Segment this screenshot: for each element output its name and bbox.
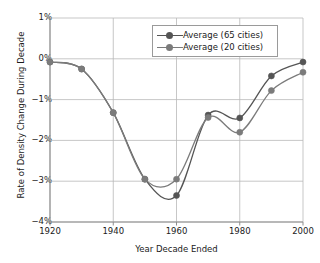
data-point — [268, 88, 274, 94]
legend: Average (65 cities) Average (20 cities) — [152, 25, 278, 57]
data-point — [205, 115, 211, 121]
legend-label: Average (20 cities) — [183, 41, 263, 53]
data-point — [47, 59, 53, 65]
data-point — [300, 69, 306, 75]
data-point — [174, 176, 180, 182]
data-point — [300, 59, 306, 65]
data-point — [174, 192, 180, 198]
legend-marker-icon — [157, 30, 183, 40]
legend-item-series-20: Average (20 cities) — [157, 41, 273, 53]
data-point — [142, 176, 148, 182]
legend-marker-icon — [157, 42, 183, 52]
chart-container: Rate of Density Change During Decade Yea… — [0, 0, 320, 263]
data-point — [268, 73, 274, 79]
legend-label: Average (65 cities) — [183, 29, 263, 41]
data-point — [110, 110, 116, 116]
data-point — [237, 115, 243, 121]
legend-item-series-65: Average (65 cities) — [157, 29, 273, 41]
data-point — [237, 129, 243, 135]
data-point — [79, 66, 85, 72]
